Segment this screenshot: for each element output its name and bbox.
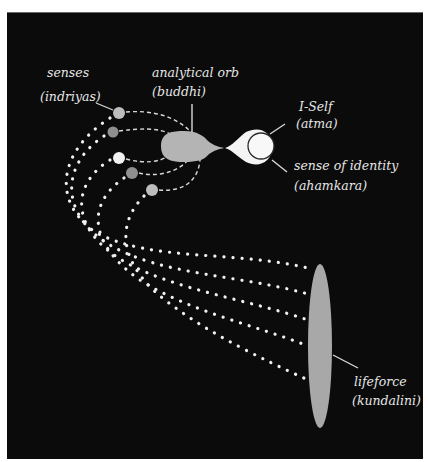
kundalini-pointer bbox=[333, 355, 358, 368]
senses-pointer bbox=[96, 103, 113, 110]
label-senses: senses bbox=[47, 65, 89, 80]
label-kundalini: (kundalini) bbox=[352, 393, 421, 408]
subtle-body-diagram: senses (indriyas) analytical orb (buddhi… bbox=[0, 0, 429, 462]
ahamkara-pointer bbox=[272, 160, 287, 172]
kundalini-ellipse bbox=[308, 264, 358, 428]
buddhi-orb bbox=[161, 104, 224, 162]
label-buddhi: (buddhi) bbox=[152, 84, 206, 99]
sense-orb-2 bbox=[108, 127, 119, 138]
channel-4 bbox=[98, 178, 308, 346]
sense-orb-4 bbox=[126, 167, 138, 179]
atma-circle bbox=[248, 133, 274, 159]
sense-orb-3 bbox=[113, 152, 125, 164]
label-i-self: I-Self bbox=[298, 99, 335, 114]
atma-pointer bbox=[270, 124, 285, 134]
atma-bulb bbox=[225, 124, 287, 172]
label-indriyas: (indriyas) bbox=[40, 89, 101, 104]
sense-orb-1 bbox=[113, 107, 125, 119]
label-lifeforce: lifeforce bbox=[354, 374, 407, 389]
label-ahamkara: (ahamkara) bbox=[294, 178, 367, 193]
sense-orbs bbox=[108, 107, 159, 196]
sense-orb-5 bbox=[146, 184, 158, 196]
label-atma: (atma) bbox=[296, 116, 338, 131]
channel-5 bbox=[126, 196, 308, 380]
label-analytical-orb: analytical orb bbox=[152, 65, 239, 80]
label-sense-of-identity: sense of identity bbox=[294, 158, 399, 173]
